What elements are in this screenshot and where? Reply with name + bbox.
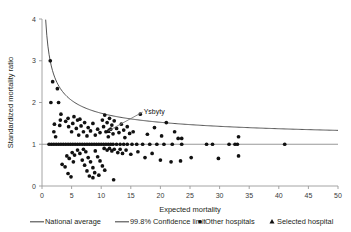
data-point [237, 154, 241, 158]
x-tick-label: 5 [70, 192, 74, 199]
data-point [108, 117, 112, 121]
data-point [57, 101, 61, 105]
data-point [118, 142, 122, 146]
data-point [125, 142, 129, 146]
data-point [160, 134, 164, 138]
data-point [164, 121, 168, 125]
data-point [51, 80, 55, 84]
data-point [236, 142, 240, 146]
data-point [237, 135, 241, 139]
legend-label-0: National average [45, 217, 101, 226]
data-point [143, 156, 147, 160]
data-point [180, 137, 184, 141]
data-point [96, 127, 100, 131]
x-tick-label: 50 [334, 192, 342, 199]
data-point [93, 149, 97, 153]
x-tick-label: 25 [186, 192, 194, 199]
data-point [76, 148, 80, 152]
y-tick-label: 2 [32, 99, 36, 106]
series-other-hospitals [47, 59, 286, 182]
data-point [85, 169, 89, 173]
data-point [93, 133, 97, 137]
data-point [77, 133, 81, 137]
data-point [117, 131, 121, 135]
data-point [124, 148, 128, 152]
x-tick-label: 10 [97, 192, 105, 199]
x-axis-title: Expected mortality [159, 205, 221, 214]
data-point [91, 122, 95, 126]
data-point [84, 150, 88, 154]
data-point [56, 87, 60, 91]
funnel-plot-figure: 0123405101520253035404550Standardized mo… [0, 0, 351, 232]
annotation-label: Ysbyty [144, 108, 166, 116]
data-point [88, 174, 92, 178]
data-point [82, 130, 86, 134]
data-point [98, 159, 102, 163]
data-point [211, 142, 215, 146]
legend-label-1: 99.8% Confidence limit [130, 217, 206, 226]
data-point [135, 142, 139, 146]
data-point [73, 153, 77, 157]
data-point [67, 157, 71, 161]
data-point [125, 125, 129, 129]
data-point [180, 142, 184, 146]
data-point [217, 157, 221, 161]
x-tick-label: 15 [127, 192, 135, 199]
x-tick-label: 35 [245, 192, 253, 199]
data-point [179, 159, 183, 163]
data-point [283, 142, 287, 146]
data-point [86, 156, 90, 160]
data-point [64, 119, 68, 123]
data-point [89, 129, 93, 133]
data-point [103, 113, 107, 117]
y-axis-title: Standardized mortality ratio [6, 57, 15, 148]
data-point [162, 142, 166, 146]
data-point [110, 123, 114, 127]
data-point [78, 117, 82, 121]
data-point [111, 142, 115, 146]
data-point [80, 158, 84, 162]
data-point [112, 178, 116, 182]
legend-marker-triangle [270, 219, 275, 224]
data-point [173, 130, 177, 134]
data-point [129, 152, 133, 156]
data-point [83, 163, 87, 167]
y-tick-label: 1 [32, 141, 36, 148]
y-tick-label: 0 [32, 183, 36, 190]
data-point [52, 130, 56, 134]
confidence-limit-curve [46, 20, 338, 131]
data-point [112, 119, 116, 123]
data-point [128, 132, 132, 136]
data-point [53, 122, 57, 126]
x-tick-label: 0 [40, 192, 44, 199]
data-point [189, 156, 193, 160]
data-point [91, 166, 95, 170]
data-point [93, 171, 97, 175]
data-point [176, 137, 180, 141]
data-point [72, 160, 76, 164]
data-point [121, 152, 125, 156]
data-point [106, 135, 110, 139]
data-point [136, 150, 140, 154]
data-point [148, 142, 152, 146]
data-point [169, 160, 173, 164]
data-point [122, 128, 126, 132]
data-point [58, 124, 62, 128]
data-point [69, 175, 73, 179]
data-point [170, 142, 174, 146]
y-tick-label: 3 [32, 57, 36, 64]
data-point [59, 118, 63, 122]
data-point [54, 135, 58, 139]
data-point [79, 124, 83, 128]
data-point [130, 142, 134, 146]
data-point [49, 101, 53, 105]
data-point [66, 172, 70, 176]
data-point [116, 151, 120, 155]
legend-marker-circle [198, 220, 202, 224]
data-point [59, 112, 63, 116]
x-tick-label: 45 [305, 192, 313, 199]
data-point [115, 142, 119, 146]
data-point [60, 162, 64, 166]
data-point [66, 117, 70, 121]
data-point [101, 118, 105, 122]
